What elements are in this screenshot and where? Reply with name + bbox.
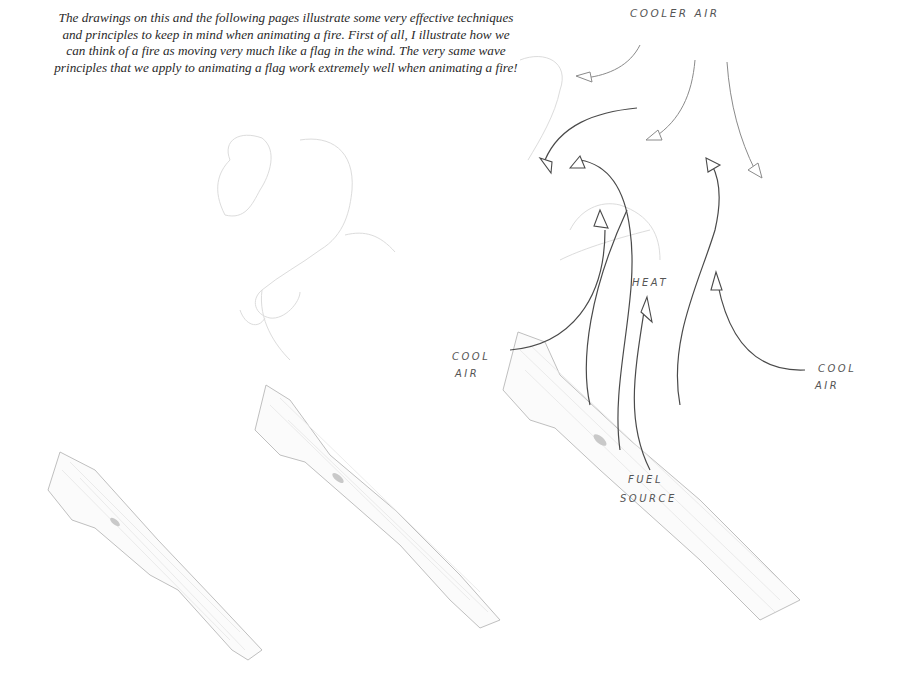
cooler-air-arrows	[576, 45, 762, 178]
log-sketch-1	[48, 452, 262, 660]
label-cool-air-left-line2: AIR	[454, 368, 479, 379]
log-sketch-2	[255, 385, 500, 628]
flame-outline-sketch-2	[218, 135, 395, 360]
cool-air-right-arrow	[711, 272, 805, 370]
label-heat: HEAT	[632, 277, 668, 288]
label-cooler-air: COOLER AIR	[630, 7, 720, 19]
label-cool-air-right-line1: COOL	[818, 363, 856, 374]
heat-arrows	[634, 297, 652, 470]
label-cool-air-right-line2: AIR	[814, 380, 839, 391]
label-cool-air-left-line1: COOL	[452, 351, 490, 362]
label-fuel-source-line1: FUEL	[628, 474, 663, 485]
fire-diagram: COOLER AIR COOL AIR COOL AIR HEAT FUEL S…	[0, 0, 906, 680]
label-fuel-source-line2: SOURCE	[620, 493, 677, 504]
